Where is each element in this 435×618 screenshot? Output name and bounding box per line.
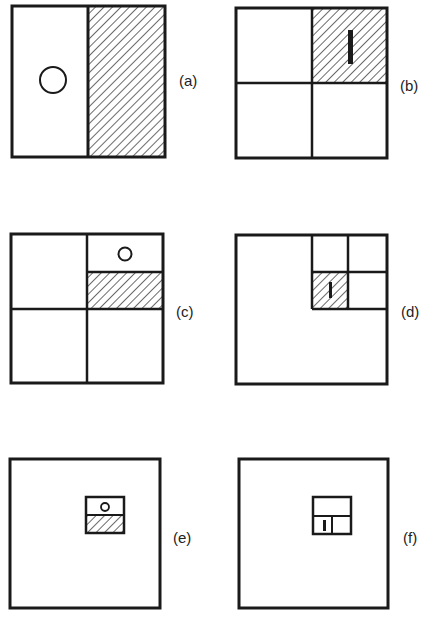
circle-icon <box>101 503 109 511</box>
bar-marker <box>329 282 332 298</box>
panel-label-c: (c) <box>176 303 194 320</box>
panel-f: (f) <box>239 459 417 608</box>
hatched-region <box>87 272 163 309</box>
panel-b: (b) <box>236 8 418 158</box>
hatched-region <box>86 515 124 533</box>
hatched-region <box>88 6 165 157</box>
panel-c: (c) <box>11 234 194 383</box>
recursive-subdivision-diagram: (a) (b) (c) (d) (e) <box>0 0 435 618</box>
panel-label-d: (d) <box>401 303 419 320</box>
panel-label-e: (e) <box>173 529 191 546</box>
panel-e: (e) <box>10 459 191 608</box>
panel-label-f: (f) <box>403 529 417 546</box>
panel-label-a: (a) <box>179 72 197 89</box>
panel-label-b: (b) <box>400 77 418 94</box>
circle-icon <box>40 67 66 93</box>
circle-icon <box>119 248 132 261</box>
bar-marker <box>348 30 353 64</box>
panel-d: (d) <box>236 235 419 384</box>
panel-a: (a) <box>12 6 197 157</box>
bar-marker <box>323 520 326 531</box>
